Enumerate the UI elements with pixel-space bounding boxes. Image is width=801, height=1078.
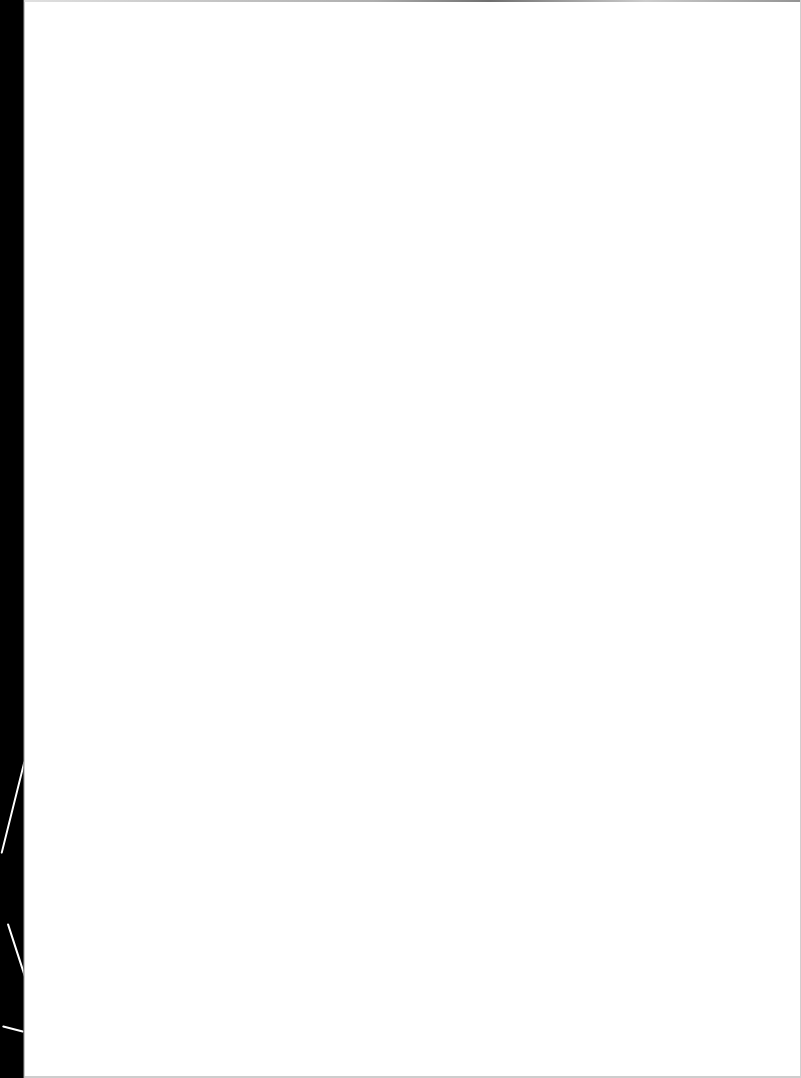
scanner-black-margin — [0, 0, 24, 1078]
scanned-page — [0, 0, 801, 1078]
blank-page-content — [24, 0, 801, 1078]
